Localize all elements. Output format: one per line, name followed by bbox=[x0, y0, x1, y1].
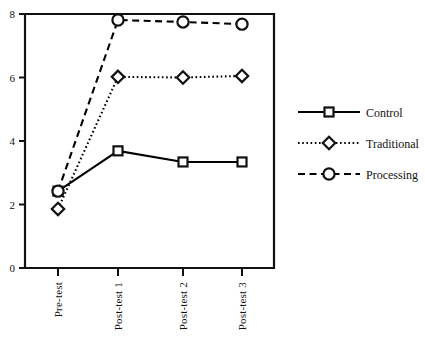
chart-legend: ControlTraditionalProcessing bbox=[298, 106, 420, 182]
legend-marker-square bbox=[325, 108, 334, 117]
x-axis-category-labels: Pre-testPost-test 1Post-test 2Post-test … bbox=[52, 282, 248, 331]
x-category-label: Post-test 1 bbox=[112, 282, 124, 330]
legend-item-processing[interactable]: Processing bbox=[298, 168, 418, 182]
x-category-label: Post-test 3 bbox=[236, 282, 248, 331]
series-processing bbox=[52, 14, 247, 196]
legend-label: Control bbox=[366, 106, 403, 120]
y-tick-label: 8 bbox=[10, 8, 16, 20]
x-category-label: Post-test 2 bbox=[177, 282, 189, 330]
y-axis-tick-labels: 02468 bbox=[10, 8, 16, 274]
plot-frame bbox=[25, 14, 274, 268]
data-point-marker bbox=[179, 157, 188, 166]
series-traditional bbox=[52, 70, 248, 215]
line-chart: 02468 Pre-testPost-test 1Post-test 2Post… bbox=[0, 0, 425, 341]
y-tick-label: 4 bbox=[10, 135, 16, 147]
data-point-marker bbox=[112, 14, 123, 25]
data-point-marker bbox=[52, 186, 63, 197]
data-point-marker bbox=[236, 19, 247, 30]
x-axis-ticks bbox=[58, 268, 242, 276]
data-point-marker bbox=[112, 71, 124, 83]
y-tick-label: 0 bbox=[10, 262, 16, 274]
y-tick-label: 6 bbox=[10, 72, 16, 84]
legend-marker-diamond bbox=[323, 137, 335, 149]
legend-item-traditional[interactable]: Traditional bbox=[298, 137, 420, 151]
chart-figure: 02468 Pre-testPost-test 1Post-test 2Post… bbox=[0, 0, 425, 341]
data-point-marker bbox=[236, 70, 248, 82]
legend-item-control[interactable]: Control bbox=[298, 106, 403, 120]
data-point-marker bbox=[177, 16, 188, 27]
data-point-marker bbox=[114, 146, 123, 155]
series-line bbox=[58, 20, 242, 191]
legend-marker-circle bbox=[323, 168, 334, 179]
data-series-layer bbox=[52, 14, 248, 215]
y-tick-label: 2 bbox=[10, 199, 16, 211]
legend-label: Processing bbox=[366, 168, 418, 182]
data-point-marker bbox=[177, 71, 189, 83]
data-point-marker bbox=[238, 157, 247, 166]
series-line bbox=[58, 76, 242, 209]
x-category-label: Pre-test bbox=[52, 282, 64, 317]
series-line bbox=[58, 151, 242, 191]
data-point-marker bbox=[52, 203, 64, 215]
legend-label: Traditional bbox=[366, 137, 420, 151]
